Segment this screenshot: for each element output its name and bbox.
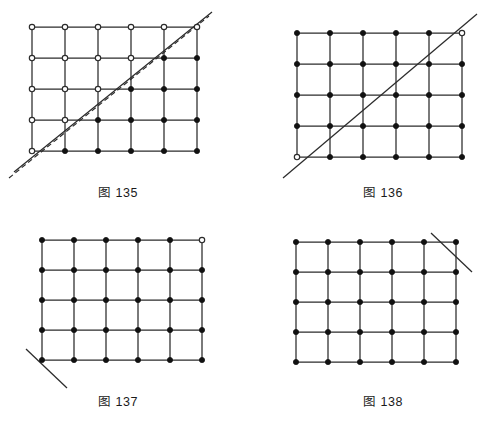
lattice-node-filled xyxy=(459,154,464,159)
lattice-figures-canvas xyxy=(0,0,493,431)
figure-caption-135: 图 135 xyxy=(78,182,158,201)
lattice-node-filled xyxy=(453,299,458,304)
lattice-node-filled xyxy=(194,55,199,60)
lattice-node-filled xyxy=(128,148,133,153)
lattice-node-open xyxy=(128,24,133,29)
lattice-node-filled xyxy=(199,357,204,362)
lattice-node-open xyxy=(161,24,166,29)
lattice-node-filled xyxy=(128,117,133,122)
lattice-node-filled xyxy=(357,329,362,334)
lattice-node-filled xyxy=(294,92,299,97)
lattice-node-filled xyxy=(167,237,172,242)
lattice-node-filled xyxy=(103,237,108,242)
lattice-node-filled xyxy=(103,327,108,332)
lattice-node-filled xyxy=(62,148,67,153)
lattice-node-filled xyxy=(426,154,431,159)
lattice-node-filled xyxy=(293,359,298,364)
lattice-node-filled xyxy=(199,267,204,272)
lattice-node-filled xyxy=(325,239,330,244)
lattice-node-filled xyxy=(459,123,464,128)
fig-136 xyxy=(283,14,477,178)
lattice-node-filled xyxy=(325,329,330,334)
lattice-node-filled xyxy=(39,267,44,272)
lattice-node-open xyxy=(62,86,67,91)
lattice-node-filled xyxy=(199,327,204,332)
lattice-node-filled xyxy=(327,154,332,159)
lattice-node-filled xyxy=(421,359,426,364)
lattice-node-open xyxy=(29,117,34,122)
lattice-node-filled xyxy=(453,269,458,274)
figure-caption-136: 图 136 xyxy=(343,182,423,201)
lattice-node-filled xyxy=(426,92,431,97)
lattice-node-filled xyxy=(327,123,332,128)
lattice-node-filled xyxy=(360,92,365,97)
lattice-node-filled xyxy=(294,123,299,128)
lattice-node-filled xyxy=(327,61,332,66)
lattice-node-open xyxy=(29,55,34,60)
lattice-node-filled xyxy=(389,239,394,244)
lattice-node-filled xyxy=(426,30,431,35)
lattice-node-open xyxy=(95,24,100,29)
corner-cut-bottom-left xyxy=(26,349,67,388)
lattice-node-filled xyxy=(360,154,365,159)
lattice-node-filled xyxy=(128,86,133,91)
solid-diagonal xyxy=(14,12,212,172)
lattice-node-filled xyxy=(71,357,76,362)
lattice-node-filled xyxy=(135,357,140,362)
lattice-node-filled xyxy=(39,327,44,332)
lattice-node-filled xyxy=(360,30,365,35)
lattice-node-filled xyxy=(294,61,299,66)
lattice-node-filled xyxy=(294,30,299,35)
lattice-node-filled xyxy=(199,297,204,302)
figure-caption-137: 图 137 xyxy=(78,391,158,410)
lattice-node-filled xyxy=(393,123,398,128)
solid-diagonal xyxy=(283,14,477,178)
lattice-node-filled xyxy=(421,269,426,274)
lattice-node-open xyxy=(459,30,464,35)
lattice-node-filled xyxy=(39,237,44,242)
lattice-node-filled xyxy=(393,61,398,66)
lattice-node-open xyxy=(294,154,299,159)
lattice-node-filled xyxy=(161,148,166,153)
lattice-node-filled xyxy=(453,329,458,334)
lattice-node-filled xyxy=(421,299,426,304)
dashed-diagonal xyxy=(9,16,209,178)
lattice-node-filled xyxy=(421,239,426,244)
lattice-node-filled xyxy=(459,92,464,97)
corner-cut-top-right xyxy=(431,233,472,272)
lattice-node-filled xyxy=(389,299,394,304)
lattice-node-filled xyxy=(389,359,394,364)
lattice-node-filled xyxy=(71,327,76,332)
lattice-node-filled xyxy=(393,30,398,35)
lattice-node-open xyxy=(95,55,100,60)
lattice-node-filled xyxy=(167,327,172,332)
lattice-node-filled xyxy=(293,329,298,334)
lattice-node-filled xyxy=(103,297,108,302)
lattice-node-filled xyxy=(325,299,330,304)
lattice-node-filled xyxy=(357,359,362,364)
lattice-node-filled xyxy=(327,92,332,97)
lattice-node-filled xyxy=(393,154,398,159)
lattice-node-filled xyxy=(135,327,140,332)
lattice-node-filled xyxy=(161,86,166,91)
lattice-node-filled xyxy=(357,269,362,274)
lattice-node-filled xyxy=(135,267,140,272)
lattice-node-open xyxy=(62,55,67,60)
lattice-node-filled xyxy=(135,297,140,302)
lattice-node-open xyxy=(62,117,67,122)
figure-caption-138: 图 138 xyxy=(343,391,423,410)
lattice-node-filled xyxy=(39,357,44,362)
lattice-node-filled xyxy=(293,299,298,304)
lattice-node-filled xyxy=(325,269,330,274)
lattice-node-filled xyxy=(194,117,199,122)
fig-138 xyxy=(293,233,472,365)
lattice-node-open xyxy=(29,148,34,153)
lattice-node-open xyxy=(194,24,199,29)
lattice-node-open xyxy=(62,24,67,29)
lattice-node-open xyxy=(199,237,204,242)
lattice-node-filled xyxy=(426,123,431,128)
lattice-node-filled xyxy=(426,61,431,66)
lattice-node-filled xyxy=(167,357,172,362)
lattice-node-filled xyxy=(194,148,199,153)
lattice-node-filled xyxy=(161,55,166,60)
